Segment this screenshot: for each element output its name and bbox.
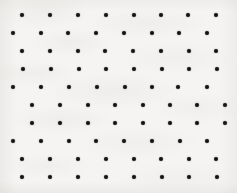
grid-dot — [168, 121, 172, 125]
grid-dot — [39, 139, 43, 143]
grid-dot — [104, 157, 108, 161]
grid-dot — [187, 67, 191, 71]
grid-dot — [205, 85, 209, 89]
grid-dot — [176, 85, 180, 89]
grid-dot — [20, 157, 24, 161]
grid-dot — [113, 121, 117, 125]
grid-dot — [11, 85, 15, 89]
grid-dot — [141, 103, 145, 107]
grid-dot — [49, 67, 53, 71]
grid-dot — [94, 139, 98, 143]
grid-dot — [132, 175, 136, 179]
grid-dot — [76, 175, 80, 179]
grid-dot — [66, 31, 70, 35]
grid-dot — [132, 13, 136, 17]
grid-dot — [186, 13, 190, 17]
grid-dot — [195, 121, 199, 125]
grid-dot — [177, 31, 181, 35]
grid-dot — [20, 13, 24, 17]
grid-dot — [58, 103, 62, 107]
grid-dot — [104, 13, 108, 17]
grid-dot — [86, 121, 90, 125]
grid-dot — [48, 49, 52, 53]
grid-dot — [214, 13, 218, 17]
grid-dot — [86, 103, 90, 107]
grid-dot — [11, 139, 15, 143]
grid-dot — [215, 175, 219, 179]
grid-dot — [223, 103, 227, 107]
dot-grid-canvas — [0, 0, 237, 193]
grid-dot — [187, 175, 191, 179]
grid-dot — [103, 49, 107, 53]
grid-dot — [205, 31, 209, 35]
grid-dot — [215, 67, 219, 71]
grid-dot — [214, 157, 218, 161]
grid-dot — [104, 175, 108, 179]
grid-dot — [141, 121, 145, 125]
grid-dot — [223, 121, 227, 125]
grid-dot — [122, 31, 126, 35]
grid-dot — [48, 157, 52, 161]
grid-dot — [58, 121, 62, 125]
grid-dot — [30, 121, 34, 125]
grid-dot — [159, 13, 163, 17]
grid-dot — [150, 31, 154, 35]
grid-dot — [132, 67, 136, 71]
grid-dot — [205, 139, 209, 143]
grid-dot — [77, 67, 81, 71]
grid-dot — [123, 85, 127, 89]
grid-dot — [168, 103, 172, 107]
grid-dot — [132, 157, 136, 161]
grid-dot — [160, 175, 164, 179]
grid-dot — [48, 13, 52, 17]
grid-dot — [160, 67, 164, 71]
grid-dot — [76, 13, 80, 17]
grid-dot — [48, 175, 52, 179]
grid-dot — [195, 103, 199, 107]
paper-texture — [0, 0, 237, 193]
grid-dot — [20, 175, 24, 179]
grid-dot — [39, 31, 43, 35]
grid-dot — [94, 31, 98, 35]
grid-dot — [95, 85, 99, 89]
grid-dot — [67, 85, 71, 89]
grid-dot — [76, 49, 80, 53]
grid-dot — [131, 49, 135, 53]
grid-dot — [11, 31, 15, 35]
grid-dot — [30, 103, 34, 107]
paper-vignette — [0, 0, 237, 193]
grid-dot — [187, 49, 191, 53]
grid-dot — [150, 85, 154, 89]
grid-dot — [67, 139, 71, 143]
grid-dot — [113, 103, 117, 107]
grid-dot — [178, 139, 182, 143]
grid-dot — [20, 49, 24, 53]
grid-dot — [122, 139, 126, 143]
grid-dot — [159, 157, 163, 161]
grid-dot — [187, 157, 191, 161]
grid-dot — [150, 139, 154, 143]
grid-dot — [104, 67, 108, 71]
grid-dot — [159, 49, 163, 53]
grid-dot — [39, 85, 43, 89]
grid-dot — [21, 67, 25, 71]
grid-dot — [76, 157, 80, 161]
grid-dot — [214, 49, 218, 53]
